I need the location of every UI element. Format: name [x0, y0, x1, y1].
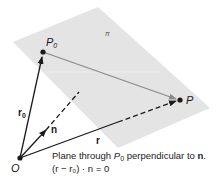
label-p: P	[186, 95, 193, 106]
point-o	[17, 155, 22, 160]
plane-pi	[13, 7, 210, 148]
caption-period: .	[203, 150, 206, 161]
label-o: O	[11, 163, 20, 174]
label-p0: P0	[46, 37, 57, 49]
label-r0-sub: 0	[22, 112, 26, 119]
caption-line-1: Plane through P0 perpendicular to n.	[52, 151, 206, 162]
caption-text-mid: perpendicular to	[124, 150, 197, 161]
caption-text: Plane through	[52, 150, 114, 161]
label-r: r	[96, 136, 100, 146]
point-p	[177, 97, 182, 102]
caption-equation: (r − r₀) · n = 0	[52, 164, 109, 174]
point-p0	[40, 49, 45, 54]
plane-label: π	[105, 30, 110, 37]
label-p0-sub: 0	[53, 42, 57, 49]
label-r0: r0	[18, 108, 26, 119]
label-n: n	[51, 125, 57, 135]
plane-diagram: π P0 P O r0 n r Plane through P0 perpend…	[0, 0, 222, 184]
